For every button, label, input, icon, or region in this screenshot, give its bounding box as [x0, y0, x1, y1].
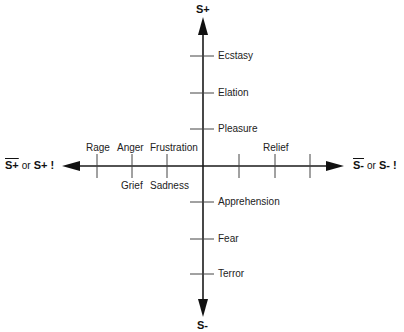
axis-right-overlined: S-: [353, 159, 364, 171]
axis-right-exclaimed: S- !: [379, 159, 397, 171]
label-fear: Fear: [218, 233, 239, 245]
arrow-up-icon: [198, 17, 208, 35]
emotion-axes-diagram: [0, 0, 404, 332]
axis-label-top: S+: [196, 3, 210, 16]
arrow-down-icon: [198, 299, 208, 317]
label-relief: Relief: [263, 142, 289, 154]
label-anger: Anger: [117, 142, 144, 154]
label-grief: Grief: [121, 180, 143, 192]
label-sadness: Sadness: [150, 180, 189, 192]
label-elation: Elation: [218, 87, 249, 99]
label-terror: Terror: [218, 268, 244, 280]
axis-right-connector: or: [367, 160, 376, 171]
arrow-right-icon: [326, 161, 344, 171]
label-rage: Rage: [86, 142, 110, 154]
vertical-ticks: [190, 56, 214, 274]
axis-left-connector: or: [22, 160, 31, 171]
arrow-left-icon: [62, 161, 80, 171]
label-pleasure: Pleasure: [218, 123, 257, 135]
axis-left-exclaimed: S+ !: [34, 159, 54, 171]
label-apprehension: Apprehension: [218, 196, 280, 208]
label-ecstasy: Ecstasy: [218, 50, 253, 62]
axis-label-left: S+orS+ !: [5, 159, 54, 172]
axis-label-bottom: S-: [197, 319, 208, 332]
label-frustration: Frustration: [150, 142, 198, 154]
axis-left-overlined: S+: [5, 159, 19, 171]
axis-label-right: S-orS- !: [353, 159, 397, 172]
